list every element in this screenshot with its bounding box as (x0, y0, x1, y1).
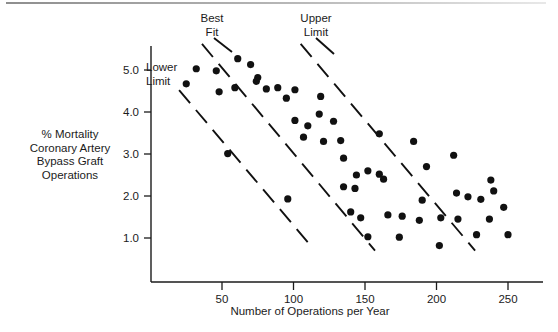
data-point (291, 86, 298, 93)
x-tick-label: 200 (427, 293, 446, 305)
data-point (384, 211, 391, 218)
annotation-lower-limit-line-1: Lower (146, 60, 194, 74)
x-tick-label: 150 (355, 293, 374, 305)
data-point (473, 231, 480, 238)
y-axis-label-line-2: Coronary Artery (14, 142, 126, 156)
annotation-lower-limit-line-2: Limit (146, 74, 194, 88)
x-tick-label: 250 (498, 293, 517, 305)
x-tick-label: 50 (216, 293, 229, 305)
data-point (274, 84, 281, 91)
x-axis-ticks: 50100150200250 (216, 282, 518, 305)
data-point (234, 55, 241, 62)
data-point (490, 187, 497, 194)
y-axis-ticks: 1.02.03.04.05.0 (123, 64, 151, 244)
data-point (477, 196, 484, 203)
data-point (316, 111, 323, 118)
axes-group (151, 46, 543, 282)
data-point (419, 197, 426, 204)
annotation-best-fit: Best Fit (186, 12, 238, 39)
data-point (340, 183, 347, 190)
annotation-upper-limit-line-2: Limit (288, 26, 344, 40)
data-point (423, 163, 430, 170)
data-point (453, 189, 460, 196)
data-point (500, 204, 507, 211)
data-point (284, 195, 291, 202)
x-tick-label: 100 (284, 293, 303, 305)
data-point (454, 216, 461, 223)
upper-limit-leader-line (316, 38, 334, 54)
data-point (416, 217, 423, 224)
best-fit-leader-line (214, 38, 232, 52)
annotation-upper-limit: Upper Limit (288, 12, 344, 39)
data-point (330, 118, 337, 125)
y-axis-label-line-3: Bypass Graft (14, 155, 126, 169)
x-axis-label: Number of Operations per Year (190, 305, 430, 317)
y-tick-label: 1.0 (123, 232, 139, 244)
data-point (347, 208, 354, 215)
data-point (410, 138, 417, 145)
data-point (486, 216, 493, 223)
reference-line-upper-limit (301, 44, 475, 251)
data-point (320, 138, 327, 145)
figure-page: 1.02.03.04.05.0 50100150200250 % Mortali… (0, 0, 558, 332)
data-point (399, 213, 406, 220)
data-point (351, 185, 358, 192)
data-point (213, 67, 220, 74)
data-point (224, 150, 231, 157)
data-point (300, 134, 307, 141)
annotation-leader-lines (214, 38, 334, 54)
data-point (216, 88, 223, 95)
data-point (504, 231, 511, 238)
data-point (364, 167, 371, 174)
data-point (263, 85, 270, 92)
data-point (291, 117, 298, 124)
annotation-upper-limit-line-1: Upper (288, 12, 344, 26)
data-point (247, 61, 254, 68)
data-point (353, 171, 360, 178)
data-point (340, 155, 347, 162)
data-point (436, 242, 443, 249)
data-point (283, 95, 290, 102)
data-point (464, 193, 471, 200)
annotation-best-fit-line-2: Fit (186, 26, 238, 40)
data-point (357, 214, 364, 221)
data-point (231, 84, 238, 91)
data-point (380, 176, 387, 183)
data-point (317, 93, 324, 100)
y-axis-label-line-1: % Mortality (14, 128, 126, 142)
data-point (487, 176, 494, 183)
data-point (396, 234, 403, 241)
data-point (253, 78, 260, 85)
data-point (364, 233, 371, 240)
data-point (376, 130, 383, 137)
annotation-best-fit-line-1: Best (186, 12, 238, 26)
annotation-lower-limit: Lower Limit (146, 60, 194, 88)
y-tick-label: 4.0 (123, 106, 139, 118)
reference-line-lower-limit (179, 90, 311, 245)
y-tick-label: 5.0 (123, 64, 139, 76)
y-axis-label-line-4: Operations (14, 169, 126, 183)
y-tick-label: 2.0 (123, 190, 139, 202)
reference-lines-group (179, 44, 475, 251)
data-point (437, 214, 444, 221)
data-point (450, 152, 457, 159)
data-point (304, 122, 311, 129)
data-point (337, 137, 344, 144)
y-axis-label: % Mortality Coronary Artery Bypass Graft… (14, 128, 126, 182)
